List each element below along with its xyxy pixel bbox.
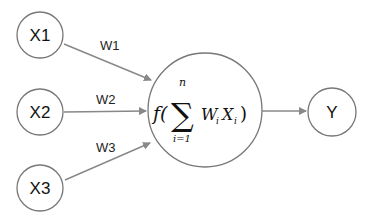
weight-label-w1: W1	[100, 38, 120, 53]
weight-label-w2: W2	[96, 92, 116, 107]
perceptron-diagram: X1 X2 X3 W1 W2 W3 f( ∑ n i=1 W i X i ) Y	[0, 0, 372, 223]
edge-x2-neuron: W2	[64, 92, 146, 112]
weight-subscript: i	[216, 116, 219, 126]
input-label-x2: X2	[30, 103, 51, 122]
sum-symbol: ∑	[171, 96, 194, 134]
input-node-x1: X1	[17, 12, 63, 58]
edge-x3-neuron: W3	[65, 140, 150, 180]
activation-function: f(	[151, 102, 168, 124]
input-subscript: i	[234, 116, 237, 126]
output-node-y: Y	[308, 88, 356, 136]
arrow-icon	[64, 111, 146, 112]
input-label-x3: X3	[30, 179, 51, 198]
input-node-x2: X2	[17, 89, 63, 135]
edge-x1-neuron: W1	[64, 38, 151, 80]
sum-upper-limit: n	[179, 76, 186, 89]
sum-lower-limit: i=1	[173, 133, 191, 144]
input-label-x1: X1	[30, 26, 51, 45]
input-term: X	[220, 105, 234, 124]
neuron-node: f( ∑ n i=1 W i X i )	[148, 53, 262, 167]
weight-label-w3: W3	[96, 140, 116, 155]
output-label-y: Y	[326, 103, 337, 122]
closing-paren: )	[240, 103, 247, 124]
input-node-x3: X3	[17, 165, 63, 211]
